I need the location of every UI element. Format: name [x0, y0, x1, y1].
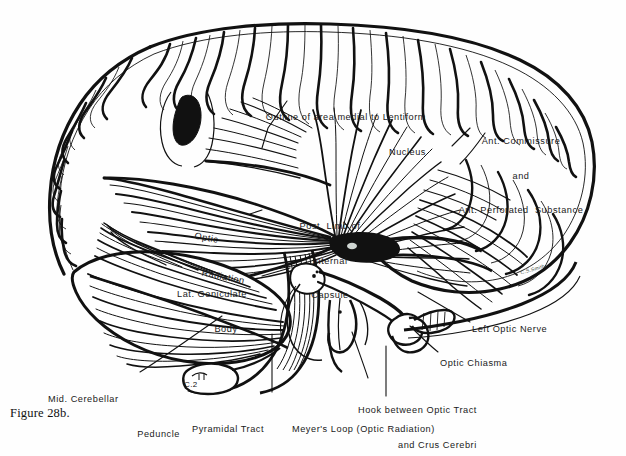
- label-internal-capsule-line2: Internal: [286, 256, 374, 268]
- label-lentiform-nucleus: Outline of area medial to Lentiform Nucl…: [228, 89, 426, 181]
- label-lentiform-line2: Nucleus: [228, 147, 426, 159]
- label-hook-optic-tract: Hook between Optic Tract and Crus Cerebr…: [358, 382, 538, 456]
- figure-caption: Figure 28b.: [10, 406, 70, 421]
- label-optic-chiasma: Optic Chiasma: [440, 358, 507, 370]
- label-lentiform-line1: Outline of area medial to Lentiform: [228, 112, 426, 124]
- figure-canvas: Outline of area medial to Lentiform Nucl…: [0, 0, 626, 456]
- label-cord-level-c2: C.2: [184, 380, 198, 389]
- label-ant-perforated-substance: Ant. Perforated Substance: [432, 205, 610, 217]
- label-pyramidal-tract: Pyramidal Tract: [192, 424, 264, 436]
- label-meyers-loop: Meyer's Loop (Optic Radiation): [292, 424, 435, 436]
- label-lateral-geniculate-body: Lat. Geniculate Body: [160, 266, 264, 358]
- label-left-optic-nerve: Left Optic Nerve: [472, 324, 547, 336]
- label-internal-capsule-line3: Capsule: [286, 290, 374, 302]
- label-ant-commissure-line1: Ant. Commissure: [432, 136, 610, 148]
- label-mid-cerebellar-line1: Mid. Cerebellar: [48, 394, 180, 406]
- label-anterior-commissure: Ant. Commissure and Ant. Perforated Subs…: [432, 113, 610, 240]
- label-mid-cerebellar-line2: Peduncle: [48, 429, 180, 441]
- label-lat-geniculate-line1: Lat. Geniculate: [160, 289, 264, 301]
- label-internal-capsule-line1: Post. Limb of: [286, 221, 374, 233]
- label-optic-radiation-line1: Optic: [193, 231, 274, 258]
- label-lat-geniculate-line2: Body: [160, 324, 264, 336]
- label-ant-commissure-line2: and: [432, 171, 610, 183]
- label-internal-capsule: Post. Limb of Internal Capsule: [286, 198, 374, 325]
- label-hook-line1: Hook between Optic Tract: [358, 405, 538, 417]
- label-hook-line2: and Crus Cerebri: [358, 440, 538, 452]
